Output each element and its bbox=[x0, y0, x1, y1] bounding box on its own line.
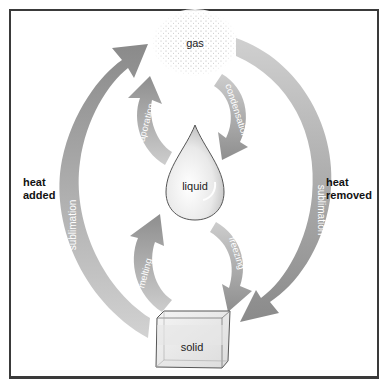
solid-cube bbox=[156, 311, 230, 368]
liquid-label: liquid bbox=[182, 180, 208, 192]
solid-label: solid bbox=[181, 341, 204, 353]
sublimation-down-arrow bbox=[236, 38, 332, 322]
sublimation-up-label: sublimation bbox=[67, 200, 78, 251]
heat-added-line1: heat bbox=[23, 176, 55, 189]
sublimation-up-arrow bbox=[59, 44, 150, 338]
heat-added-line2: added bbox=[23, 189, 55, 202]
heat-removed-line2: removed bbox=[326, 189, 372, 202]
gas-label: gas bbox=[186, 37, 204, 49]
heat-added-label: heat added bbox=[23, 176, 55, 202]
heat-removed-line1: heat bbox=[326, 176, 372, 189]
heat-removed-label: heat removed bbox=[326, 176, 372, 202]
liquid-droplet bbox=[166, 125, 224, 220]
